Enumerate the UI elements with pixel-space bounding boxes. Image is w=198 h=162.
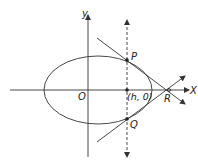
point-r-label: R xyxy=(164,93,171,104)
x-axis-label: X xyxy=(189,85,198,96)
foot-point-label: (h, 0) xyxy=(127,91,153,102)
ellipse-tangent-diagram: y X O P Q R (h, 0) xyxy=(0,0,198,162)
point-q xyxy=(125,117,129,121)
point-q-label: Q xyxy=(130,119,138,130)
origin-label: O xyxy=(78,91,86,102)
tangent-line-q xyxy=(97,76,185,142)
y-axis-label: y xyxy=(81,8,89,19)
point-p xyxy=(125,58,129,62)
point-p-label: P xyxy=(131,51,138,62)
